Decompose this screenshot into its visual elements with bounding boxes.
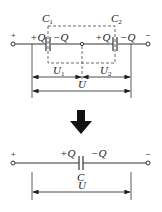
down-arrow-icon [70,110,92,134]
u2-label: U2 [100,64,112,78]
u1-label: U1 [53,64,65,78]
bottom-circuit: + − +Q −Q C U [11,147,151,200]
series-capacitor-diagram: + − C1 C2 +Q −Q +Q −Q U1 U2 U [0,0,162,212]
right-terminal-sign: − [146,31,151,40]
c-right-charge: −Q [91,147,106,159]
left-terminal-sign: + [11,31,16,40]
left-terminal-icon [11,42,15,46]
top-circuit: + − C1 C2 +Q −Q +Q −Q U1 U2 U [11,12,151,98]
u-label: U [78,78,87,90]
c1-right-charge: −Q [53,31,68,43]
left-terminal-sign: + [11,150,16,159]
c-left-charge: +Q [60,147,75,159]
u-label: U [78,179,87,191]
junction-node-icon [80,42,83,45]
c2-right-charge: −Q [120,31,135,43]
right-terminal-icon [146,42,150,46]
right-terminal-icon [146,161,150,165]
left-terminal-icon [11,161,15,165]
right-terminal-sign: − [146,150,151,159]
c1-label: C1 [42,12,53,26]
c2-left-charge: +Q [95,31,110,43]
c2-label: C2 [111,12,122,26]
c1-left-charge: +Q [30,31,45,43]
